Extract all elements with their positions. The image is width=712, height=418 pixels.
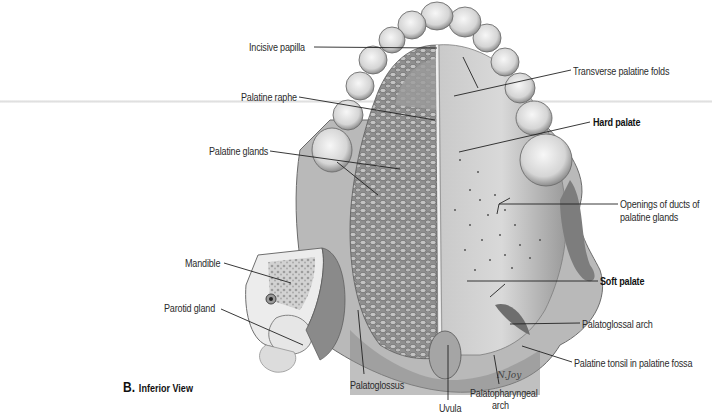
palate-illustration: N.Joy bbox=[0, 0, 712, 418]
label-hard-palate: Hard palate bbox=[593, 116, 640, 128]
label-palatopharyngeal-line1: Palatopharyngeal bbox=[470, 387, 538, 399]
label-incisive-papilla: Incisive papilla bbox=[249, 41, 305, 53]
label-soft-palate: Soft palate bbox=[600, 275, 644, 287]
label-palatopharyngeal-line2: arch bbox=[492, 399, 509, 411]
label-palatine-tonsil: Palatine tonsil in palatine fossa bbox=[574, 357, 692, 369]
label-parotid-gland: Parotid gland bbox=[164, 302, 215, 314]
label-palatoglossus: Palatoglossus bbox=[350, 379, 404, 391]
caption-text: Inferior View bbox=[139, 382, 193, 394]
label-openings-of-ducts-line1: Openings of ducts of bbox=[620, 198, 699, 210]
label-uvula: Uvula bbox=[439, 402, 461, 414]
caption-letter: B. bbox=[123, 379, 135, 395]
label-mandible: Mandible bbox=[185, 257, 220, 269]
anatomical-figure: N.Joy bbox=[0, 0, 712, 418]
label-openings-of-ducts-line2: palatine glands bbox=[620, 211, 678, 223]
label-palatoglossal-arch: Palatoglossal arch bbox=[582, 318, 653, 330]
label-palatine-glands: Palatine glands bbox=[209, 145, 268, 157]
artist-signature: N.Joy bbox=[496, 370, 522, 380]
label-transverse-palatine-folds: Transverse palatine folds bbox=[573, 65, 669, 77]
figure-caption: B. Inferior View bbox=[123, 378, 193, 396]
label-palatine-raphe: Palatine raphe bbox=[241, 91, 297, 103]
